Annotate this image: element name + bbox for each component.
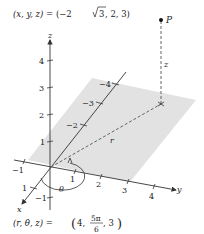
svg-text:(x, y, z) = (−2: (x, y, z) = (−2 [13,9,72,19]
svg-text:3: 3 [99,9,104,19]
point-p-label: P [165,15,173,25]
theta-label: θ [59,185,64,194]
xy-plane [28,78,196,182]
x-axis-label: x [17,205,22,214]
svg-text:(: ( [71,216,76,231]
cylindrical-coordinates-equation: (r, θ, z) = ( 4, 5π 6 , 3 ) [13,214,122,234]
svg-text:(r, θ, z) =: (r, θ, z) = [13,218,53,228]
y-tick-label-3: 3 [122,186,127,195]
z-tick-label-4: 4 [39,57,44,66]
svg-text:, 3: , 3 [103,218,114,228]
x-tick-label-neg2: −2 [66,121,78,130]
svg-text:5π: 5π [91,214,101,223]
svg-text:6: 6 [94,225,99,234]
z-tick-label-neg1: −1 [35,194,47,203]
y-tick-label-2: 2 [96,180,101,189]
z-tick-label-3: 3 [39,84,44,93]
z-tick-label-1: 1 [40,138,45,147]
rectangular-coordinates-equation: (x, y, z) = (−2 3 , 2, 3) [13,7,130,19]
svg-text:, 2, 3): , 2, 3) [105,9,130,19]
svg-text:): ) [117,216,122,231]
z-axis-label: z [47,31,53,40]
x-tick-label-neg4: −4 [99,80,111,89]
cylindrical-coordinates-diagram: z y x 4 3 2 1 −1 −1 1 2 3 4 1 −2 −3 −4 P… [0,0,204,234]
z-segment-label: z [163,60,169,69]
x-tick-label-neg3: −3 [82,99,94,108]
y-tick-label-4: 4 [149,192,154,201]
x-tick-label-1: 1 [22,184,27,193]
svg-text:4,: 4, [77,218,85,228]
z-tick-label-2: 2 [39,111,44,120]
y-tick-label-neg1: −1 [12,166,24,175]
y-tick-label-1: 1 [70,175,75,184]
y-axis-label: y [176,185,182,194]
point-p [159,18,163,22]
